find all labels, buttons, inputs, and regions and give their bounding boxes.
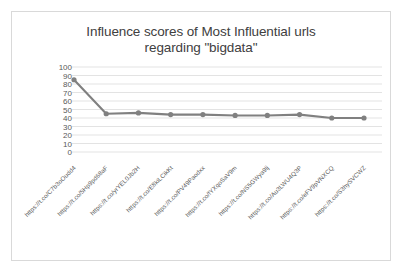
y-axis-tick-label: 10 [46,140,72,147]
y-axis-tick-labels: 1009080706050403020100 [44,12,72,262]
data-point-marker [136,110,141,115]
data-point-marker [329,115,334,120]
y-axis-tick-label: 30 [46,123,72,130]
chart-container: Influence scores of Most Influential url… [11,11,391,261]
y-axis-tick-label: 70 [46,89,72,96]
y-axis-tick-label: 0 [46,149,72,156]
data-point-marker [200,112,205,117]
y-axis-tick-label: 90 [46,72,72,79]
y-axis-tick-label: 100 [46,64,72,71]
y-axis-tick-label: 40 [46,115,72,122]
data-point-marker [71,77,76,82]
data-point-marker [297,112,302,117]
y-axis-tick-label: 50 [46,106,72,113]
series-line [74,80,364,118]
data-point-marker [265,113,270,118]
plot-area: 1009080706050403020100 [12,12,392,262]
gridlines [72,67,382,152]
y-axis-tick-label: 80 [46,81,72,88]
y-axis-tick-label: 20 [46,132,72,139]
data-point-marker [168,112,173,117]
data-point-marker [233,113,238,118]
data-point-marker [104,111,109,116]
y-axis-tick-label: 60 [46,98,72,105]
data-point-marker [361,115,366,120]
